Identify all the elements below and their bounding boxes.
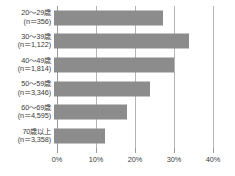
bar-track-2: [54, 53, 235, 77]
table-row: 60〜69歳 (n＝4,595): [0, 101, 235, 125]
x-tick-label-40: 40%: [206, 155, 221, 164]
category-n-3: (n＝3,346): [0, 89, 51, 98]
x-tick-label-20: 20%: [128, 155, 143, 164]
bar-track-3: [54, 77, 235, 101]
bar-track-1: [54, 30, 235, 54]
bar-chart: 20〜29歳 (n＝356) 30〜39歳 (n＝1,122) 40〜49歳 (…: [0, 0, 235, 176]
x-tick-label-0: 0%: [52, 155, 62, 164]
category-n-2: (n＝1,814): [0, 65, 51, 74]
x-tick-20: [135, 148, 136, 153]
table-row: 70歳以上 (n＝3,358): [0, 124, 235, 148]
bar-0: [54, 10, 163, 25]
category-label-0: 20〜29歳 (n＝356): [0, 9, 54, 26]
x-tick-label-30: 30%: [167, 155, 182, 164]
x-tick-0: [57, 148, 58, 153]
category-label-3: 50〜59歳 (n＝3,346): [0, 80, 54, 97]
category-label-4: 60〜69歳 (n＝4,595): [0, 104, 54, 121]
x-tick-30: [174, 148, 175, 153]
x-tick-40: [213, 148, 214, 153]
category-n-1: (n＝1,122): [0, 41, 51, 50]
category-label-5: 70歳以上 (n＝3,358): [0, 128, 54, 145]
table-row: 20〜29歳 (n＝356): [0, 6, 235, 30]
bar-5: [54, 129, 105, 144]
table-row: 30〜39歳 (n＝1,122): [0, 30, 235, 54]
category-n-4: (n＝4,595): [0, 112, 51, 121]
bar-1: [54, 34, 189, 49]
x-tick-label-10: 10%: [89, 155, 104, 164]
bar-4: [54, 105, 127, 120]
bar-2: [54, 58, 174, 73]
bar-track-5: [54, 124, 235, 148]
category-label-1: 30〜39歳 (n＝1,122): [0, 33, 54, 50]
bar-3: [54, 81, 150, 96]
category-label-2: 40〜49歳 (n＝1,814): [0, 57, 54, 74]
x-tick-10: [96, 148, 97, 153]
x-axis: 0% 10% 20% 30% 40%: [57, 148, 213, 176]
table-row: 50〜59歳 (n＝3,346): [0, 77, 235, 101]
bar-track-4: [54, 101, 235, 125]
bar-rows: 20〜29歳 (n＝356) 30〜39歳 (n＝1,122) 40〜49歳 (…: [0, 6, 235, 148]
category-n-5: (n＝3,358): [0, 136, 51, 145]
category-n-0: (n＝356): [0, 18, 51, 27]
bar-track-0: [54, 6, 235, 30]
table-row: 40〜49歳 (n＝1,814): [0, 53, 235, 77]
